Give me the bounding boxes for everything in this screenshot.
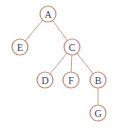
tree-diagram: A E C D F B G	[0, 0, 121, 138]
node-c: C	[64, 39, 80, 55]
node-d: D	[37, 72, 53, 88]
node-f: F	[63, 72, 79, 88]
node-g-label: G	[94, 108, 101, 119]
node-g: G	[90, 105, 106, 121]
node-d-label: D	[41, 75, 48, 86]
node-c-label: C	[69, 42, 76, 53]
node-a: A	[40, 6, 56, 22]
node-b-label: B	[95, 75, 102, 86]
node-f-label: F	[68, 75, 74, 86]
node-e-label: E	[17, 42, 23, 53]
node-e: E	[12, 39, 28, 55]
edges	[20, 14, 98, 113]
node-b: B	[90, 72, 106, 88]
node-a-label: A	[44, 9, 52, 20]
